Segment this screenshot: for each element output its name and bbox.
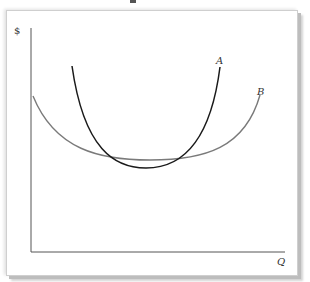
y-axis-label: $ [14,25,20,36]
chart-canvas: $ Q A B [0,0,310,282]
curve-a-label: A [215,55,223,66]
curve-b [33,95,260,160]
curve-b-label: B [256,86,264,97]
x-axis-label: Q [277,256,285,267]
